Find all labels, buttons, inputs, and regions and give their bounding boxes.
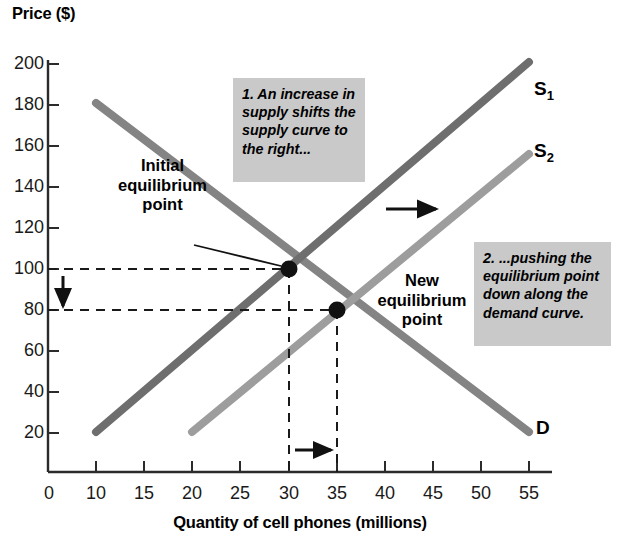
y-tick-label-200: 200 bbox=[6, 53, 44, 74]
y-tick-label-160: 160 bbox=[6, 135, 44, 156]
note2-line-1: 2. ...pushing the bbox=[483, 249, 602, 267]
y-tick-label-80: 80 bbox=[6, 299, 44, 320]
s2-label-subscript: 2 bbox=[547, 150, 554, 165]
demand-curve-label: D bbox=[536, 417, 550, 439]
x-axis-ticks bbox=[96, 461, 529, 472]
note-box-supply-shift: 1. An increase in supply shifts the supp… bbox=[233, 78, 365, 182]
x-tick-label-55: 55 bbox=[518, 483, 540, 504]
x-tick-label-25: 25 bbox=[229, 483, 251, 504]
x-axis-title: Quantity of cell phones (millions) bbox=[0, 513, 600, 532]
initial-callout-line-2: equilibrium bbox=[95, 176, 230, 196]
note2-line-4: demand curve. bbox=[483, 304, 602, 322]
y-tick-label-40: 40 bbox=[6, 381, 44, 402]
new-callout-line-2: equilibrium bbox=[362, 291, 482, 311]
x-tick-label-0: 0 bbox=[38, 483, 60, 504]
new-equilibrium-point bbox=[329, 302, 346, 319]
supply-demand-chart: Price ($) 200 180 160 140 120 100 80 60 … bbox=[0, 0, 617, 540]
y-axis-title: Price ($) bbox=[12, 4, 75, 23]
note1-line-2: supply shifts the bbox=[242, 103, 356, 121]
equilibrium-guide-lines bbox=[48, 269, 337, 472]
note1-line-4: the right... bbox=[242, 140, 356, 158]
s2-label-base: S bbox=[534, 140, 547, 161]
y-tick-label-180: 180 bbox=[6, 94, 44, 115]
x-tick-label-40: 40 bbox=[374, 483, 396, 504]
x-tick-label-30: 30 bbox=[278, 483, 300, 504]
note2-line-3: down along the bbox=[483, 285, 602, 303]
y-tick-label-60: 60 bbox=[6, 340, 44, 361]
x-tick-label-45: 45 bbox=[422, 483, 444, 504]
initial-callout-line-1: Initial bbox=[95, 156, 230, 176]
x-tick-label-15: 15 bbox=[133, 483, 155, 504]
initial-callout-line-3: point bbox=[95, 195, 230, 215]
x-tick-label-35: 35 bbox=[326, 483, 348, 504]
y-tick-label-140: 140 bbox=[6, 176, 44, 197]
x-tick-label-20: 20 bbox=[181, 483, 203, 504]
note1-line-1: 1. An increase in bbox=[242, 85, 356, 103]
note-box-equilibrium-shift: 2. ...pushing the equilibrium point down… bbox=[474, 242, 611, 346]
initial-equilibrium-callout: Initial equilibrium point bbox=[95, 156, 230, 215]
initial-equilibrium-leader-line bbox=[194, 245, 281, 266]
y-tick-label-20: 20 bbox=[6, 422, 44, 443]
supply-curve-s1-label: S1 bbox=[534, 78, 554, 103]
y-axis-ticks bbox=[48, 64, 59, 433]
new-callout-line-3: point bbox=[362, 310, 482, 330]
x-tick-label-10: 10 bbox=[85, 483, 107, 504]
initial-equilibrium-point bbox=[281, 261, 298, 278]
new-equilibrium-callout: New equilibrium point bbox=[362, 271, 482, 330]
x-tick-label-50: 50 bbox=[470, 483, 492, 504]
y-tick-label-120: 120 bbox=[6, 217, 44, 238]
note1-line-3: supply curve to bbox=[242, 121, 356, 139]
supply-curve-s2-label: S2 bbox=[534, 140, 554, 165]
s1-label-base: S bbox=[534, 78, 547, 99]
s1-label-subscript: 1 bbox=[547, 88, 554, 103]
new-callout-line-1: New bbox=[362, 271, 482, 291]
y-tick-label-100: 100 bbox=[6, 258, 44, 279]
note2-line-2: equilibrium point bbox=[483, 267, 602, 285]
